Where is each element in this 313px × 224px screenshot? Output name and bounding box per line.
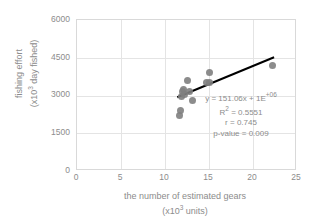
x-axis-title-line2: (x103 units) (60, 202, 310, 217)
x-axis-title: the number of estimated gears (x103 unit… (60, 190, 310, 217)
data-point (184, 77, 191, 84)
annotation-equation: y = 151.06x + 1E+06 (189, 90, 293, 104)
plot-area: y = 151.06x + 1E+06 R2 = 0.5551 r = 0.74… (76, 19, 296, 170)
x-tick-label-15: 15 (193, 173, 223, 182)
y-tick-label-6000: 6000 (30, 15, 70, 24)
y-axis-title: fishing effort (x103 day fished) (13, 4, 40, 144)
x-tick-label-10: 10 (149, 173, 179, 182)
x-tick-label-20: 20 (237, 173, 267, 182)
x-tick-label-0: 0 (61, 173, 91, 182)
y-axis-title-line2: (x103 day fished) (25, 4, 40, 144)
y-tick-label-3000: 3000 (30, 90, 70, 99)
x-tick-label-5: 5 (105, 173, 135, 182)
x-tick-label-25: 25 (281, 173, 311, 182)
annotation-p-value: p-value = 0.009 (189, 129, 293, 140)
data-point (206, 69, 213, 76)
x-axis-title-line1: the number of estimated gears (60, 190, 310, 202)
annotation-r-squared: R2 = 0.5551 (189, 104, 293, 118)
y-tick-label-4500: 4500 (30, 53, 70, 62)
scatter-chart: fishing effort (x103 day fished) 6000 45… (0, 0, 313, 224)
y-axis-title-line1: fishing effort (13, 4, 25, 144)
regression-annotation: y = 151.06x + 1E+06 R2 = 0.5551 r = 0.74… (189, 90, 293, 139)
annotation-r-value: r = 0.745 (189, 118, 293, 129)
y-tick-label-1500: 1500 (30, 128, 70, 137)
